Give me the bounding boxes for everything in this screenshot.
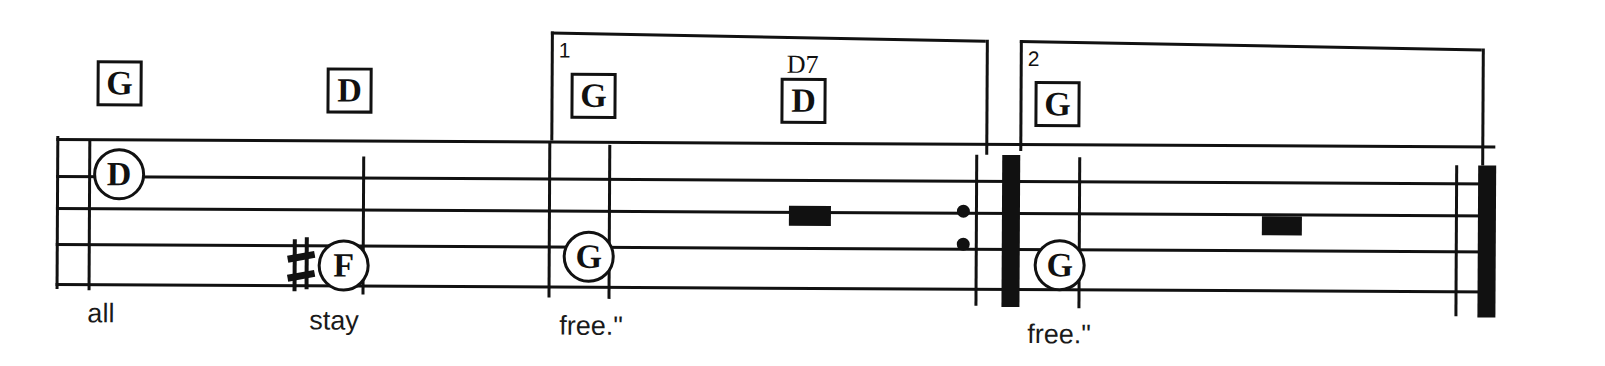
barline-thick-9 (1477, 165, 1496, 317)
chord-box-D-2: D (326, 67, 372, 113)
staff-line-5 (56, 283, 1495, 294)
barline-0 (56, 136, 60, 289)
chord-box-G-1: G (96, 60, 142, 106)
barline-5 (974, 155, 978, 306)
chord-superscript-D7: D7 (787, 52, 819, 78)
block-notehead-2 (1262, 216, 1302, 235)
barline-4 (607, 145, 611, 299)
staff-lines-group (1, 0, 1605, 8)
barline-3 (547, 142, 551, 298)
repeat-barline-dots-group (1, 0, 1605, 8)
volta-2-left-hook (1019, 40, 1023, 151)
lyric-1: all (87, 300, 114, 327)
lyric-3: free." (559, 313, 623, 340)
sharp-icon (285, 235, 315, 297)
chord-box-G-3: G (570, 73, 616, 119)
notehead-G-4: G (1034, 239, 1086, 291)
staff-line-1 (56, 138, 1495, 149)
volta-2-top-line (1020, 40, 1482, 51)
barlines-group (1, 0, 1605, 8)
block-notehead-1 (789, 206, 831, 226)
volta-brackets-group: 12 (1, 0, 1605, 8)
notehead-D-1: D (93, 148, 145, 200)
staff-system: 12 GDGD7DG DFGG allstayfree."free." (0, 0, 1605, 366)
staff-line-4 (56, 243, 1495, 254)
volta-1-right-hook (985, 40, 989, 155)
volta-1-left-hook (550, 32, 554, 141)
staff-line-2 (56, 175, 1495, 186)
block-noteheads-group (1, 0, 1605, 8)
barline-7 (1077, 157, 1081, 308)
lyrics-group: allstayfree."free." (1, 0, 1605, 8)
volta-2-right-hook (1481, 48, 1485, 165)
notehead-F-2: F (318, 239, 370, 291)
barline-thick-6 (1001, 155, 1020, 307)
lyric-4: free." (1027, 321, 1091, 348)
volta-1-top-line (551, 32, 986, 43)
noteheads-group: DFGG (1, 0, 1605, 8)
lyric-2: stay (309, 307, 359, 334)
repeat-dot-1 (957, 205, 970, 218)
repeat-dot-2 (957, 238, 970, 251)
chord-symbols-group: GDGD7DG (1, 0, 1605, 8)
music-sheet-canvas: 12 GDGD7DG DFGG allstayfree."free." (0, 0, 1605, 366)
volta-number-2: 2 (1028, 48, 1040, 69)
barline-8 (1454, 165, 1458, 316)
chord-box-D-4: D (780, 78, 826, 124)
chord-box-G-5: G (1034, 81, 1080, 127)
barline-1 (88, 140, 92, 290)
volta-number-1: 1 (559, 40, 571, 61)
notehead-G-3: G (563, 231, 615, 283)
